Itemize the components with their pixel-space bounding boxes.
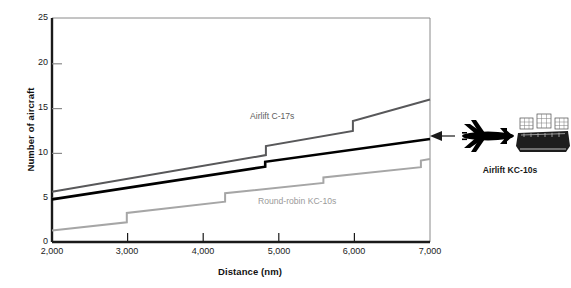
series-label-airlift-c17s: Airlift C-17s bbox=[250, 111, 294, 121]
x-tick-label-2000: 2,000 bbox=[29, 246, 75, 256]
cargo-pallets-icon bbox=[516, 114, 570, 152]
x-tick-label-3000: 3,000 bbox=[104, 246, 150, 256]
y-tick-label-25: 25 bbox=[22, 12, 48, 22]
y-tick-label-0: 0 bbox=[22, 236, 48, 246]
airplane-icon bbox=[462, 120, 514, 152]
x-tick-label-4000: 4,000 bbox=[180, 246, 226, 256]
x-axis-title: Distance (nm) bbox=[130, 266, 370, 277]
plot-frame bbox=[52, 18, 430, 242]
x-tick-label-6000: 6,000 bbox=[331, 246, 377, 256]
x-axis-ticks bbox=[128, 233, 355, 242]
x-tick-label-7000: 7,000 bbox=[407, 246, 453, 256]
series-label-round-robin-kc10s: Round-robin KC-10s bbox=[258, 196, 336, 206]
y-axis-title: Number of aircraft bbox=[25, 60, 36, 200]
callout-arrow bbox=[430, 131, 455, 141]
x-tick-label-5000: 5,000 bbox=[256, 246, 302, 256]
y-axis-ticks bbox=[52, 64, 62, 198]
chart-canvas bbox=[0, 0, 571, 288]
chart-figure: 25 20 15 10 5 0 2,000 3,000 4,000 5,000 … bbox=[0, 0, 571, 288]
callout-caption-airlift-kc10s: Airlift KC-10s bbox=[455, 165, 565, 175]
series-line-airlift-kc10s bbox=[52, 139, 430, 199]
